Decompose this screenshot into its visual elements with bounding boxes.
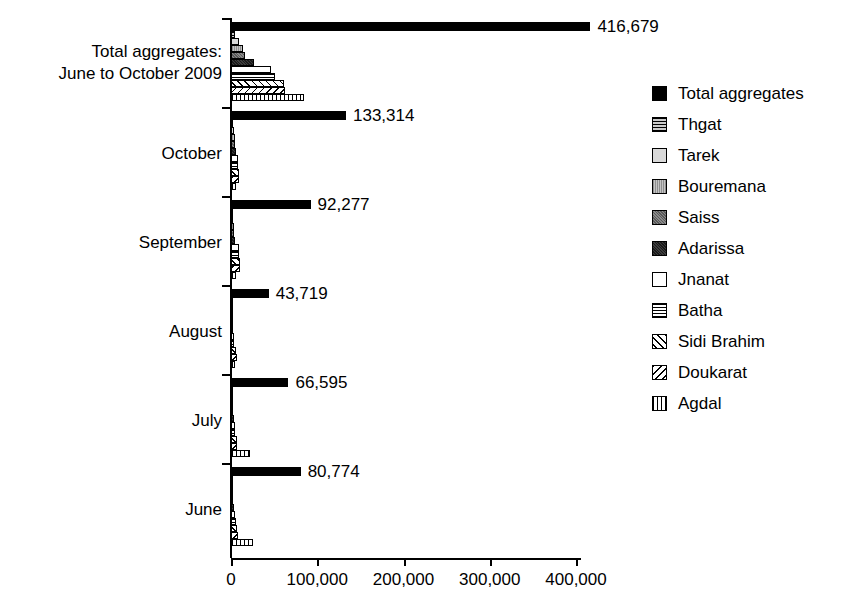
bar-row xyxy=(231,298,576,305)
bar-sidi-brahim xyxy=(231,169,239,176)
bar-row xyxy=(231,504,576,511)
bar-jnanat xyxy=(231,422,235,429)
bar-saiss xyxy=(231,52,245,59)
legend-swatch-icon xyxy=(652,365,667,380)
bar-row xyxy=(231,476,576,483)
bar-thgat xyxy=(231,387,233,394)
legend-item-doukarat[interactable]: Doukarat xyxy=(652,357,804,388)
bar-row xyxy=(231,326,576,333)
bar-total-aggregates xyxy=(231,111,346,120)
bar-total-aggregates xyxy=(231,289,269,298)
bar-row xyxy=(231,80,576,87)
bar-row xyxy=(231,162,576,169)
bar-row xyxy=(231,436,576,443)
bar-row xyxy=(231,347,576,354)
bar-row xyxy=(231,518,576,525)
legend-swatch-icon xyxy=(652,396,667,411)
bar-group: 43,719 xyxy=(231,289,576,368)
x-tick-label: 200,000 xyxy=(373,570,434,590)
bar-value-label: 416,679 xyxy=(590,18,658,36)
legend-item-adarissa[interactable]: Adarissa xyxy=(652,233,804,264)
bar-row xyxy=(231,87,576,94)
bar-row xyxy=(231,73,576,80)
bar-row xyxy=(231,511,576,518)
legend-item-agdal[interactable]: Agdal xyxy=(652,388,804,419)
bar-agdal xyxy=(231,272,236,279)
bar-group: 133,314 xyxy=(231,111,576,190)
bar-sidi-brahim xyxy=(231,525,237,532)
y-category-label: October xyxy=(0,143,222,165)
bar-total-aggregates xyxy=(231,200,311,209)
bar-batha xyxy=(231,429,235,436)
legend-item-tarek[interactable]: Tarek xyxy=(652,140,804,171)
legend-label: Thgat xyxy=(678,115,721,135)
legend-swatch-icon xyxy=(652,272,667,287)
bar-sidi-brahim xyxy=(231,436,237,443)
legend-item-bouremana[interactable]: Bouremana xyxy=(652,171,804,202)
bar-tarek xyxy=(231,483,233,490)
legend-swatch-icon xyxy=(652,179,667,194)
bar-row xyxy=(231,443,576,450)
bar-thgat xyxy=(231,31,235,38)
bar-row xyxy=(231,127,576,134)
legend-label: Bouremana xyxy=(678,177,766,197)
bar-row xyxy=(231,272,576,279)
y-category-label: September xyxy=(0,232,222,254)
bar-jnanat xyxy=(231,244,239,251)
bar-batha xyxy=(231,340,234,347)
bar-doukarat xyxy=(231,532,238,539)
bar-row xyxy=(231,183,576,190)
y-category-label-wrap: Total aggregates: June to October 2009 xyxy=(0,41,222,85)
x-tick-label: 0 xyxy=(226,570,235,590)
legend-item-total-aggregates[interactable]: Total aggregates xyxy=(652,78,804,109)
bar-row xyxy=(231,539,576,546)
bar-bouremana xyxy=(231,312,233,319)
bar-doukarat xyxy=(231,443,237,450)
y-group-tick xyxy=(222,18,232,20)
y-group-tick xyxy=(222,374,232,376)
bar-row xyxy=(231,525,576,532)
bar-doukarat xyxy=(231,265,240,272)
bar-row xyxy=(231,209,576,216)
bar-row xyxy=(231,31,576,38)
bar-row xyxy=(231,169,576,176)
legend-label: Jnanat xyxy=(678,270,729,290)
y-category-label: Total aggregates: June to October 2009 xyxy=(0,41,222,85)
bar-row xyxy=(231,497,576,504)
bar-total-aggregates xyxy=(231,378,288,387)
bar-row xyxy=(231,450,576,457)
bar-row xyxy=(231,490,576,497)
bar-thgat xyxy=(231,209,233,216)
bar-row xyxy=(231,59,576,66)
bar-batha xyxy=(231,73,275,80)
legend-label: Saiss xyxy=(678,208,720,228)
y-group-tick xyxy=(222,107,232,109)
bar-row xyxy=(231,333,576,340)
bar-saiss xyxy=(231,319,233,326)
bar-bouremana xyxy=(231,134,235,141)
legend-swatch-icon xyxy=(652,148,667,163)
bar-row xyxy=(231,258,576,265)
bar-row xyxy=(231,148,576,155)
bar-row xyxy=(231,237,576,244)
bar-row xyxy=(231,429,576,436)
bar-doukarat xyxy=(231,176,239,183)
bar-saiss xyxy=(231,497,233,504)
bar-jnanat xyxy=(231,511,235,518)
bar-agdal xyxy=(231,94,304,101)
legend-item-sidi-brahim[interactable]: Sidi Brahim xyxy=(652,326,804,357)
bar-row: 43,719 xyxy=(231,289,576,298)
bar-row xyxy=(231,38,576,45)
legend-item-thgat[interactable]: Thgat xyxy=(652,109,804,140)
bar-adarissa xyxy=(231,504,234,511)
legend-item-batha[interactable]: Batha xyxy=(652,295,804,326)
bar-doukarat xyxy=(231,87,285,94)
legend-item-saiss[interactable]: Saiss xyxy=(652,202,804,233)
bar-tarek xyxy=(231,394,233,401)
bar-row xyxy=(231,134,576,141)
bar-adarissa xyxy=(231,326,233,333)
legend-swatch-icon xyxy=(652,86,667,101)
bar-bouremana xyxy=(231,45,243,52)
legend-item-jnanat[interactable]: Jnanat xyxy=(652,264,804,295)
bar-group: 80,774 xyxy=(231,467,576,546)
